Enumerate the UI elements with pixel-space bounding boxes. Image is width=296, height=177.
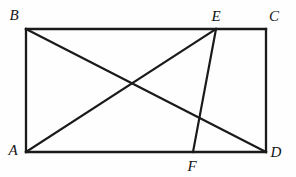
vertex-label-b: B bbox=[9, 8, 18, 23]
vertex-label-c: C bbox=[269, 9, 279, 24]
vertex-label-a: A bbox=[8, 143, 17, 158]
figure-canvas bbox=[0, 0, 296, 177]
segment-diagonal-ae bbox=[26, 29, 216, 152]
vertex-label-e: E bbox=[211, 9, 220, 24]
vertex-label-d: D bbox=[271, 145, 282, 160]
vertex-label-f: F bbox=[187, 159, 196, 174]
segments-layer bbox=[26, 29, 266, 152]
segment-cevian-ef bbox=[193, 29, 216, 152]
segment-diagonal-bd bbox=[26, 29, 266, 152]
geometry-figure: ABCDEF bbox=[0, 0, 296, 177]
